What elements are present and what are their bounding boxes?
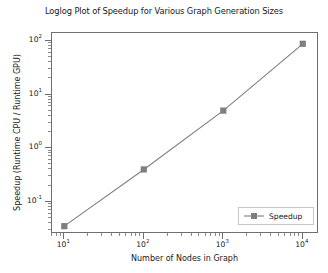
y-tick-minor bbox=[48, 150, 51, 151]
x-tick-major bbox=[222, 233, 223, 239]
legend[interactable]: Speedup bbox=[238, 207, 314, 225]
y-tick-minor bbox=[48, 155, 51, 156]
y-tick-minor bbox=[48, 185, 51, 186]
x-tick-minor bbox=[51, 233, 52, 236]
x-tick-minor bbox=[205, 233, 206, 236]
x-tick-minor bbox=[60, 233, 61, 236]
series-speedup bbox=[52, 33, 318, 233]
y-tick-label: 102 bbox=[29, 35, 42, 44]
y-tick-minor bbox=[48, 163, 51, 164]
y-tick-minor bbox=[48, 131, 51, 132]
x-tick-minor bbox=[125, 233, 126, 236]
y-tick-major bbox=[45, 201, 51, 202]
y-tick-minor bbox=[48, 115, 51, 116]
x-tick-minor bbox=[139, 233, 140, 236]
x-tick-major bbox=[302, 233, 303, 239]
legend-label-speedup: Speedup bbox=[269, 212, 302, 221]
y-tick-minor bbox=[48, 42, 51, 43]
legend-line-marker-icon bbox=[243, 211, 265, 221]
x-tick-minor bbox=[111, 233, 112, 236]
series-markers bbox=[61, 41, 306, 230]
x-tick-minor bbox=[215, 233, 216, 236]
y-tick-minor bbox=[48, 217, 51, 218]
y-tick-label: 10-1 bbox=[27, 196, 42, 205]
data-point bbox=[141, 166, 147, 172]
x-tick-minor bbox=[119, 233, 120, 236]
y-tick-minor bbox=[48, 68, 51, 69]
x-tick-minor bbox=[135, 233, 136, 236]
figure: Loglog Plot of Speedup for Various Graph… bbox=[0, 0, 328, 273]
y-axis-title: Speedup (Runtime CPU / Runtime GPU) bbox=[13, 33, 22, 233]
x-tick-major bbox=[143, 233, 144, 239]
y-tick-minor bbox=[48, 110, 51, 111]
x-tick-minor bbox=[284, 233, 285, 236]
y-tick-major bbox=[45, 94, 51, 95]
series-line bbox=[64, 44, 302, 226]
plot-area bbox=[51, 32, 318, 233]
y-tick-minor bbox=[48, 229, 51, 230]
x-tick-minor bbox=[198, 233, 199, 236]
y-tick-minor bbox=[48, 52, 51, 53]
x-tick-minor bbox=[290, 233, 291, 236]
y-tick-label: 101 bbox=[29, 89, 42, 98]
chart-title: Loglog Plot of Speedup for Various Graph… bbox=[0, 6, 328, 16]
x-tick-minor bbox=[278, 233, 279, 236]
y-tick-minor bbox=[48, 222, 51, 223]
x-tick-minor bbox=[246, 233, 247, 236]
x-tick-minor bbox=[260, 233, 261, 236]
y-tick-minor bbox=[48, 206, 51, 207]
data-point bbox=[300, 41, 306, 47]
x-tick-label: 104 bbox=[295, 240, 308, 249]
y-tick-minor bbox=[48, 99, 51, 100]
x-tick-minor bbox=[87, 233, 88, 236]
x-tick-minor bbox=[294, 233, 295, 236]
y-tick-major bbox=[45, 147, 51, 148]
x-tick-minor bbox=[167, 233, 168, 236]
x-tick-minor bbox=[181, 233, 182, 236]
x-tick-minor bbox=[191, 233, 192, 236]
x-tick-minor bbox=[101, 233, 102, 236]
y-tick-minor bbox=[48, 168, 51, 169]
y-tick-minor bbox=[48, 61, 51, 62]
y-tick-minor bbox=[48, 152, 51, 153]
x-tick-minor bbox=[270, 233, 271, 236]
y-tick-minor bbox=[48, 77, 51, 78]
y-tick-minor bbox=[48, 102, 51, 103]
x-tick-minor bbox=[131, 233, 132, 236]
y-tick-minor bbox=[48, 209, 51, 210]
x-tick-minor bbox=[298, 233, 299, 236]
y-tick-minor bbox=[48, 105, 51, 106]
data-point bbox=[220, 108, 226, 114]
x-tick-major bbox=[63, 233, 64, 239]
x-tick-minor bbox=[56, 233, 57, 236]
x-tick-minor bbox=[210, 233, 211, 236]
x-tick-label: 103 bbox=[216, 240, 229, 249]
y-tick-minor bbox=[48, 48, 51, 49]
y-tick-label: 100 bbox=[29, 142, 42, 151]
data-point bbox=[61, 223, 67, 229]
y-tick-minor bbox=[48, 213, 51, 214]
x-tick-label: 101 bbox=[57, 240, 70, 249]
y-tick-minor bbox=[48, 159, 51, 160]
y-tick-minor bbox=[48, 56, 51, 57]
x-tick-minor bbox=[219, 233, 220, 236]
y-tick-minor bbox=[48, 175, 51, 176]
y-tick-major bbox=[45, 40, 51, 41]
x-tick-label: 102 bbox=[136, 240, 149, 249]
y-tick-minor bbox=[48, 122, 51, 123]
y-tick-minor bbox=[48, 203, 51, 204]
y-tick-minor bbox=[48, 96, 51, 97]
y-tick-minor bbox=[48, 45, 51, 46]
x-axis-title: Number of Nodes in Graph bbox=[51, 254, 318, 263]
